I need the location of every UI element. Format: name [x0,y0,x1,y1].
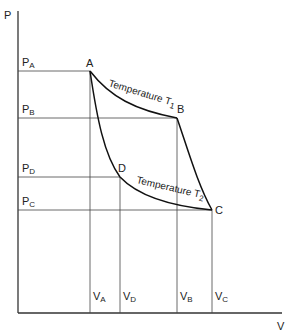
point-d-label: D [118,162,126,174]
svg-text:Temperature T1: Temperature T1 [107,77,178,111]
svg-text:PB: PB [22,103,35,117]
isotherm-t1-label: Temperature T1 [107,77,178,111]
volume-label-vb: VB [180,290,193,304]
point-c-label: C [215,204,223,216]
svg-text:PD: PD [22,162,35,176]
isotherm-t2-label: Temperature T2 [135,174,206,203]
svg-text:PA: PA [22,56,35,70]
pv-diagram: P V A B C D PA PB PD PC VA VD VB VC [0,0,293,335]
volume-label-vc: VC [215,290,228,304]
svg-text:VA: VA [93,290,106,304]
x-axis-label: V [277,320,285,332]
volume-label-vd: VD [123,290,136,304]
svg-text:VB: VB [180,290,193,304]
svg-text:VD: VD [123,290,136,304]
pressure-label-pb: PB [22,103,35,117]
svg-text:VC: VC [215,290,228,304]
point-b-label: B [177,103,184,115]
svg-text:PC: PC [22,195,35,209]
volume-label-va: VA [93,290,106,304]
y-axis-label: P [4,9,11,21]
pressure-label-pa: PA [22,56,35,70]
point-a-label: A [86,57,94,69]
svg-text:Temperature T2: Temperature T2 [135,174,206,203]
pressure-label-pc: PC [22,195,35,209]
pressure-label-pd: PD [22,162,35,176]
